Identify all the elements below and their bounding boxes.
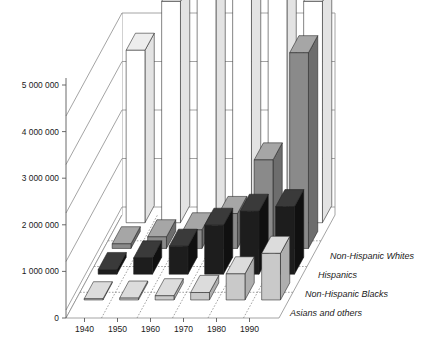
bar-non-hispanic-whites-1940 bbox=[126, 33, 154, 223]
chart-container: 5 000 000 4 000 000 3 000 000 2 000 000 … bbox=[0, 0, 423, 350]
x-tick-1970: 1970 bbox=[174, 324, 193, 334]
x-tick-1990: 1990 bbox=[240, 324, 259, 334]
x-tick-1940: 1940 bbox=[75, 324, 94, 334]
bar-non-hispanic-blacks-1970 bbox=[205, 208, 233, 274]
series-label-non-hispanic-blacks: Non-Hispanic Blacks bbox=[305, 289, 389, 299]
x-tick-1950: 1950 bbox=[108, 324, 127, 334]
bar-non-hispanic-whites-1950 bbox=[162, 0, 190, 223]
y-tick-0: 0 bbox=[54, 313, 59, 323]
x-tick-1960: 1960 bbox=[141, 324, 160, 334]
y-tick-4m: 4 000 000 bbox=[22, 127, 60, 137]
series-label-asians-and-others: Asians and others bbox=[289, 308, 363, 318]
y-tick-2m: 2 000 000 bbox=[22, 220, 60, 230]
bar-asians-and-others-1990 bbox=[262, 236, 290, 300]
x-tick-1980: 1980 bbox=[207, 324, 226, 334]
bar-non-hispanic-whites-1960 bbox=[197, 0, 225, 223]
y-axis: 5 000 000 4 000 000 3 000 000 2 000 000 … bbox=[22, 78, 66, 323]
y-tick-1m: 1 000 000 bbox=[22, 266, 60, 276]
series-label-hispanics: Hispanics bbox=[318, 270, 358, 280]
y-tick-5m: 5 000 000 bbox=[22, 80, 60, 90]
series-label-non-hispanic-whites: Non-Hispanic Whites bbox=[330, 251, 415, 261]
bar-chart-3d: 5 000 000 4 000 000 3 000 000 2 000 000 … bbox=[0, 0, 423, 350]
y-tick-3m: 3 000 000 bbox=[22, 173, 60, 183]
x-axis: 1940 1950 1960 1970 1980 1990 bbox=[75, 318, 259, 334]
